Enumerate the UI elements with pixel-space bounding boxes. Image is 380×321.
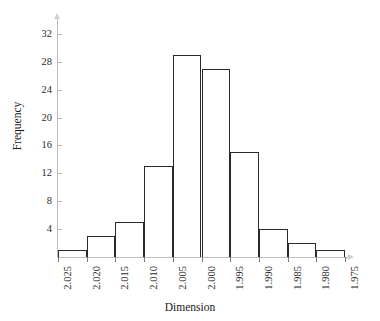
- x-axis-tick: [202, 257, 203, 262]
- y-axis-title: Frequency: [11, 76, 23, 176]
- y-axis-tick: [57, 201, 62, 202]
- x-axis-tick: [288, 257, 289, 262]
- x-axis-tick-label: 1.980: [321, 266, 332, 290]
- histogram-bar: [173, 55, 202, 257]
- y-axis-tick: [57, 62, 62, 63]
- x-axis-tick: [87, 257, 88, 262]
- histogram-bar: [202, 69, 231, 257]
- x-axis-tick-label: 1.990: [264, 266, 275, 290]
- x-axis-tick-label: 2.010: [149, 266, 160, 290]
- y-axis-tick-label: 16: [42, 140, 53, 151]
- x-axis-tick-label: 2.005: [178, 266, 189, 290]
- histogram-bar: [115, 222, 144, 257]
- histogram-bar: [87, 236, 116, 257]
- y-axis-tick: [57, 118, 62, 119]
- x-axis-tick: [115, 257, 116, 262]
- x-axis-tick: [58, 257, 59, 262]
- x-axis-arrow-icon: [348, 254, 354, 260]
- y-axis-tick-label: 28: [42, 57, 53, 68]
- y-axis-arrow-icon: [54, 13, 60, 19]
- y-axis-tick: [57, 145, 62, 146]
- x-axis-tick: [173, 257, 174, 262]
- x-axis-tick: [259, 257, 260, 262]
- y-axis-tick-label: 8: [47, 196, 52, 207]
- y-axis-tick: [57, 34, 62, 35]
- x-axis-tick: [316, 257, 317, 262]
- x-axis-tick-label: 1.995: [235, 266, 246, 290]
- x-axis-tick: [144, 257, 145, 262]
- histogram-figure: 48121620242832 2.0252.0202.0152.0102.005…: [0, 0, 380, 321]
- histogram-bar: [316, 250, 345, 257]
- y-axis-tick-label: 24: [42, 85, 53, 96]
- x-axis-title: Dimension: [0, 301, 380, 313]
- y-axis-tick-label: 20: [42, 113, 53, 124]
- x-axis-tick-label: 1.975: [350, 266, 361, 290]
- histogram-bar: [58, 250, 87, 257]
- y-axis-tick-label: 32: [42, 29, 53, 40]
- y-axis-line: [57, 18, 58, 258]
- x-axis-tick-label: 2.015: [120, 266, 131, 290]
- histogram-bar: [144, 166, 173, 257]
- y-axis-tick: [57, 173, 62, 174]
- x-axis-line: [57, 257, 349, 258]
- x-axis-tick: [345, 257, 346, 262]
- histogram-bar: [288, 243, 317, 257]
- x-axis-tick-label: 2.000: [207, 266, 218, 290]
- x-axis-tick-label: 2.025: [63, 266, 74, 290]
- y-axis-tick-label: 12: [42, 168, 53, 179]
- y-axis-tick: [57, 229, 62, 230]
- x-axis-tick: [230, 257, 231, 262]
- x-axis-tick-label: 1.985: [293, 266, 304, 290]
- histogram-bar: [259, 229, 288, 257]
- histogram-bar: [230, 152, 259, 257]
- y-axis-tick: [57, 90, 62, 91]
- y-axis-tick-label: 4: [47, 224, 52, 235]
- x-axis-tick-label: 2.020: [92, 266, 103, 290]
